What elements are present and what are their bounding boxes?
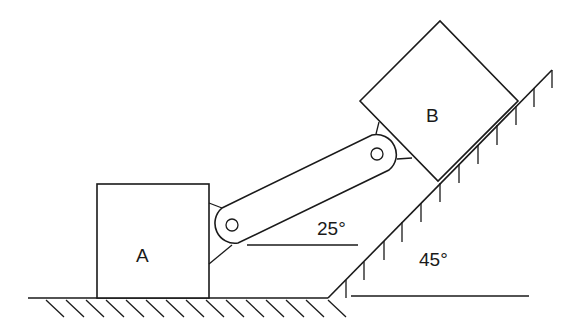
block-b-label: B <box>426 105 439 126</box>
link-angle-label: 25° <box>317 218 346 239</box>
block-a: A <box>97 184 209 298</box>
connecting-link <box>215 135 396 244</box>
ground <box>28 298 346 317</box>
ground-hatching <box>46 300 346 317</box>
mechanism-diagram: A B 25° 45° <box>0 0 584 333</box>
pin-a-icon <box>226 219 238 231</box>
pin-b-icon <box>371 148 383 160</box>
incline-angle-label: 45° <box>419 249 448 270</box>
block-a-label: A <box>136 245 149 266</box>
